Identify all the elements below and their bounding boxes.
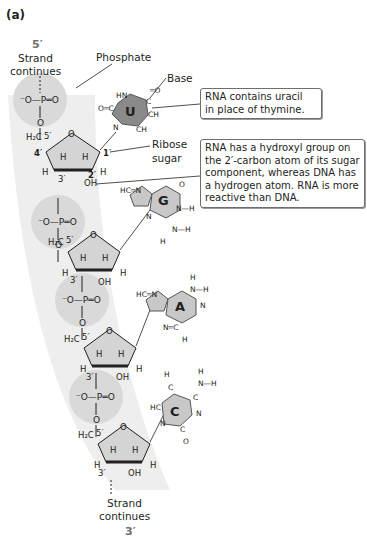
strand-continues-top-line2: continues <box>10 65 61 78</box>
svg-text:HC═N: HC═N <box>136 290 157 299</box>
svg-text:5′: 5′ <box>96 428 103 438</box>
svg-text:H: H <box>102 253 108 263</box>
svg-text:⁻O—P═O: ⁻O—P═O <box>62 295 101 305</box>
svg-text:H: H <box>182 335 188 344</box>
svg-text:N: N <box>146 212 152 221</box>
svg-text:3′: 3′ <box>86 372 93 382</box>
svg-text:CH: CH <box>148 110 159 119</box>
svg-text:5′: 5′ <box>66 235 73 245</box>
base-guanine: G HC═NON—HNN—HH <box>120 180 195 246</box>
svg-text:N: N <box>160 419 166 428</box>
svg-text:3′: 3′ <box>70 275 77 285</box>
svg-text:HN: HN <box>116 91 127 100</box>
ribose-label-line1: Ribose <box>152 138 187 151</box>
svg-text:N: N <box>200 301 206 310</box>
svg-text:H: H <box>42 167 48 177</box>
svg-text:CH: CH <box>136 125 147 134</box>
svg-text:H: H <box>100 167 106 177</box>
hydroxyl-callout-line: a hydrogen atom. RNA is more <box>205 180 360 193</box>
svg-text:O: O <box>90 230 97 240</box>
svg-text:O═C: O═C <box>98 104 114 113</box>
svg-text:H: H <box>136 364 142 374</box>
strand-continues-top-line1: Strand <box>18 52 53 65</box>
svg-text:O: O <box>37 118 44 128</box>
svg-text:H: H <box>96 349 102 359</box>
svg-text:O: O <box>120 422 127 432</box>
svg-text:H₂C: H₂C <box>78 430 94 440</box>
hydroxyl-callout-line: component, whereas DNA has <box>205 167 360 180</box>
svg-text:4′: 4′ <box>34 148 43 158</box>
three-prime-end-label: 3′ <box>125 525 136 538</box>
svg-text:OH: OH <box>128 468 141 478</box>
svg-text:HC: HC <box>150 403 161 412</box>
svg-text:N: N <box>113 123 119 132</box>
svg-text:H: H <box>164 370 170 379</box>
svg-text:H: H <box>110 445 116 455</box>
hydroxyl-callout-line: the 2′-carbon atom of its sugar <box>205 155 360 168</box>
svg-text:N—H: N—H <box>190 285 209 294</box>
hydroxyl-callout-line: RNA has a hydroxyl group on <box>205 142 360 155</box>
ribose-label-line2: sugar <box>152 152 182 165</box>
svg-text:C: C <box>168 383 173 392</box>
phosphate-label: Phosphate <box>96 51 151 64</box>
five-prime-end-label: 5′ <box>32 38 43 51</box>
svg-text:O: O <box>106 326 113 336</box>
svg-text:1′: 1′ <box>103 148 112 158</box>
svg-text:C: C <box>170 404 180 419</box>
svg-text:⁻O—P═O: ⁻O—P═O <box>38 217 77 227</box>
svg-text:OH: OH <box>84 178 97 188</box>
svg-text:⁻O—P═O: ⁻O—P═O <box>76 392 115 402</box>
svg-text:A: A <box>175 299 185 314</box>
svg-text:H: H <box>80 253 86 263</box>
svg-text:OH: OH <box>116 372 129 382</box>
svg-text:H: H <box>62 268 68 278</box>
svg-text:N—H: N—H <box>176 204 195 213</box>
svg-text:N—H: N—H <box>198 379 217 388</box>
svg-text:H: H <box>190 273 196 282</box>
svg-text:H: H <box>120 268 126 278</box>
svg-text:H: H <box>132 445 138 455</box>
svg-text:5′: 5′ <box>44 131 51 141</box>
svg-text:OH: OH <box>98 277 111 287</box>
uracil-callout-line: in place of thymine. <box>205 104 317 117</box>
svg-text:H: H <box>198 367 204 376</box>
hydroxyl-callout: RNA has a hydroxyl group on the 2′-carbo… <box>200 139 365 208</box>
svg-text:O: O <box>183 437 189 446</box>
svg-text:O: O <box>93 415 100 425</box>
strand-continues-bottom-line2: continues <box>99 510 150 523</box>
strand-continues-bottom-line1: Strand <box>107 497 142 510</box>
svg-text:⁻O—P═O: ⁻O—P═O <box>20 95 59 105</box>
base-label: Base <box>167 72 193 85</box>
svg-text:N—H: N—H <box>172 225 191 234</box>
base-adenine: A HC═NN—HNN═CHH <box>136 273 209 344</box>
svg-text:H: H <box>60 152 66 162</box>
base-uracil: U HNO═CC═OCHNCH <box>98 86 161 134</box>
svg-text:O: O <box>68 129 75 139</box>
svg-text:N: N <box>196 409 202 418</box>
uracil-callout: RNA contains uracil in place of thymine. <box>200 88 322 119</box>
svg-text:U: U <box>125 104 136 119</box>
svg-text:H: H <box>150 460 156 470</box>
svg-text:C: C <box>180 425 185 434</box>
svg-text:H₂C: H₂C <box>64 334 80 344</box>
svg-text:5′: 5′ <box>82 332 89 342</box>
svg-text:H: H <box>118 349 124 359</box>
svg-text:H: H <box>82 152 88 162</box>
svg-text:N═C: N═C <box>163 323 178 332</box>
svg-text:C: C <box>193 393 198 402</box>
svg-text:O: O <box>79 318 86 328</box>
svg-text:C: C <box>146 97 151 106</box>
svg-text:O: O <box>179 180 185 189</box>
svg-text:H₂C: H₂C <box>48 237 64 247</box>
svg-text:HC═N: HC═N <box>120 186 141 195</box>
svg-text:H₂C: H₂C <box>26 132 42 142</box>
uracil-callout-line: RNA contains uracil <box>205 91 317 104</box>
hydroxyl-callout-line: reactive than DNA. <box>205 192 360 205</box>
svg-text:3′: 3′ <box>98 468 105 478</box>
svg-text:3′: 3′ <box>58 174 65 184</box>
svg-text:H: H <box>160 237 166 246</box>
base-cytosine: C HCHCCN—HNCONH <box>150 367 217 446</box>
svg-text:G: G <box>158 193 169 208</box>
